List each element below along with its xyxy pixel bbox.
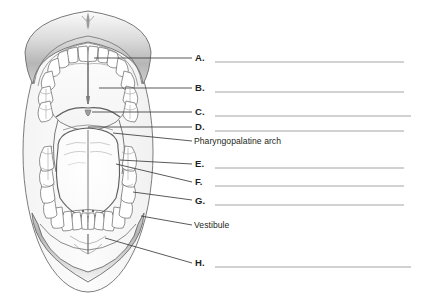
callout-label-H: H. (195, 257, 205, 268)
callout-label-D: D. (195, 121, 205, 132)
figure-page: A. B. C. D. Pharyngopalatine arch E. F. … (0, 0, 429, 301)
callout-label-F: F. (195, 176, 203, 187)
callout-label-layer: A. B. C. D. Pharyngopalatine arch E. F. … (0, 0, 429, 301)
callout-label-C: C. (195, 106, 205, 117)
callout-label-G: G. (195, 195, 205, 206)
callout-label-B: B. (195, 82, 205, 93)
callout-label-A: A. (195, 52, 205, 63)
callout-label-pharyngopalatine-arch: Pharyngopalatine arch (194, 136, 281, 146)
callout-label-vestibule: Vestibule (194, 220, 229, 230)
callout-label-E: E. (195, 158, 204, 169)
